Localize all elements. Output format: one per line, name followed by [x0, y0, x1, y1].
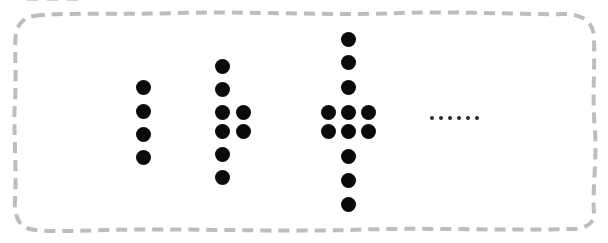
dot [341, 149, 356, 164]
ellipsis-dot [430, 116, 434, 120]
dot [341, 124, 356, 139]
dot [341, 32, 356, 47]
dot [341, 55, 356, 70]
dot [361, 124, 376, 139]
ellipsis-dot [475, 116, 479, 120]
continuation-ellipsis [430, 110, 479, 126]
dot [321, 124, 336, 139]
ellipsis-dot [466, 116, 470, 120]
dot [321, 105, 336, 120]
dot [341, 173, 356, 188]
dot [341, 197, 356, 212]
dot [361, 105, 376, 120]
dot-group-figure-3 [0, 0, 608, 243]
dot [341, 105, 356, 120]
ellipsis-dot [457, 116, 461, 120]
dot [341, 80, 356, 95]
ellipsis-dot [439, 116, 443, 120]
ellipsis-dot [448, 116, 452, 120]
dot-pattern-figure: — — — [0, 0, 608, 243]
